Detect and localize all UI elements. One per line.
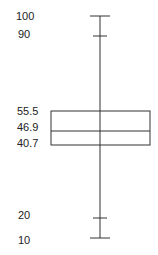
label-max: 100 (16, 10, 34, 22)
label-median: 46.9 (17, 121, 38, 133)
label-p90: 90 (18, 28, 30, 40)
label-q1: 40.7 (17, 137, 38, 149)
label-p10: 20 (18, 209, 30, 221)
label-min: 10 (18, 234, 30, 246)
label-q3: 55.5 (17, 105, 38, 117)
box-plot-chart: 100 90 55.5 46.9 40.7 20 10 (0, 0, 158, 255)
